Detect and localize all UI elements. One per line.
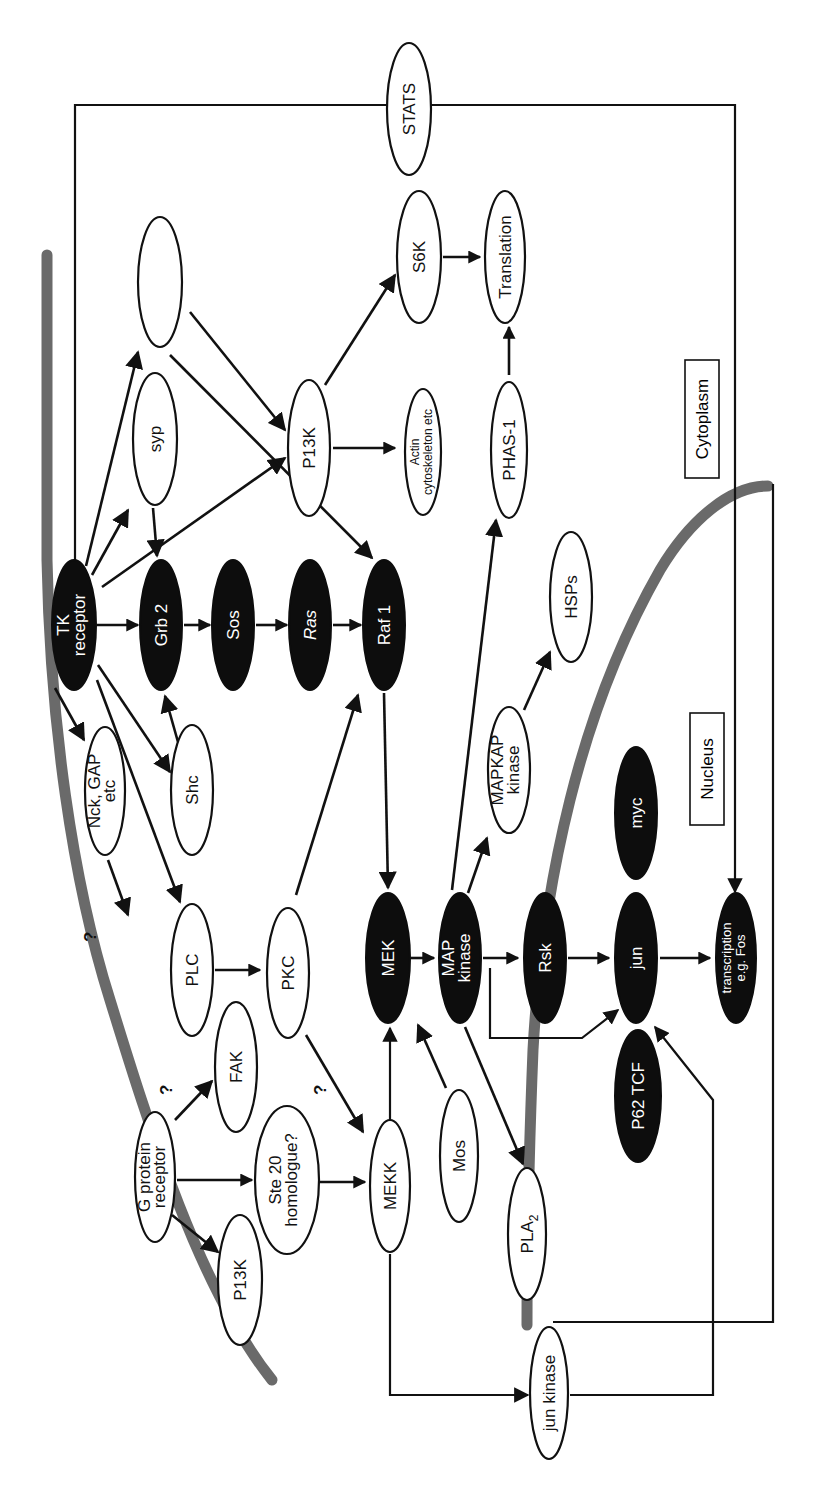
svg-text:Actin: Actin (408, 439, 422, 466)
node-mos: Mos (440, 1090, 478, 1222)
svg-text:jun: jun (627, 947, 646, 971)
node-fak: FAK (215, 1002, 257, 1132)
svg-text:MEKK: MEKK (381, 1161, 400, 1210)
node-hsps: HSPs (550, 532, 592, 662)
svg-text:receptor: receptor (150, 1145, 169, 1208)
node-tk-receptor: TK receptor (52, 560, 96, 690)
node-unlabeled-top (138, 217, 182, 347)
svg-text:kinase: kinase (455, 933, 474, 982)
node-stats: STATS (387, 43, 431, 175)
node-mapkap-kinase: MAPKAP kinase (488, 707, 530, 833)
svg-text:cytoskeleton etc: cytoskeleton etc (421, 409, 435, 495)
question-mark-g-protein-fak: ? (157, 1085, 176, 1095)
svg-text:FAK: FAK (227, 1050, 246, 1083)
nucleus-label: Nucleus (698, 738, 717, 799)
svg-text:receptor: receptor (70, 593, 89, 656)
node-shc: Shc (171, 725, 213, 855)
node-mek: MEK (366, 893, 410, 1023)
svg-text:etc: etc (100, 779, 119, 802)
svg-text:jun kinase: jun kinase (540, 1355, 559, 1433)
node-p13k-top: P13K (288, 380, 330, 516)
svg-text:PKC: PKC (279, 956, 298, 991)
question-mark-pkc-mekk: ? (311, 1085, 330, 1095)
svg-text:kinase: kinase (504, 745, 523, 794)
node-map-kinase: MAP kinase (439, 893, 481, 1023)
nucleus-label-box: Nucleus (690, 713, 724, 825)
node-p62-tcf: P62 TCF (615, 1030, 661, 1162)
cytoplasm-label: Cytoplasm (693, 379, 712, 459)
node-jun-kinase: jun kinase (530, 1327, 568, 1459)
svg-text:Translation: Translation (496, 215, 515, 298)
node-s6k: S6K (397, 191, 441, 323)
node-transcription: transcription e.g. Fos (716, 893, 756, 1023)
node-pla2: PLA2 (508, 1168, 546, 1300)
node-ste20-homologue: Ste 20 homologue? (255, 1106, 319, 1254)
node-translation: Translation (485, 191, 525, 323)
node-plc: PLC (171, 904, 213, 1036)
node-sos: Sos (212, 560, 254, 690)
node-rsk: Rsk (524, 893, 566, 1023)
node-raf1: Raf 1 (363, 560, 405, 690)
node-myc: myc (615, 747, 657, 879)
node-pkc: PKC (267, 908, 309, 1038)
node-phas1: PHAS-1 (491, 382, 527, 518)
svg-text:e.g. Fos: e.g. Fos (733, 934, 748, 981)
svg-text:PHAS-1: PHAS-1 (500, 419, 519, 480)
svg-text:transcription: transcription (719, 923, 734, 994)
svg-text:Ras: Ras (301, 609, 320, 640)
svg-text:homologue?: homologue? (282, 1133, 301, 1227)
svg-text:MEK: MEK (379, 939, 398, 977)
node-ras: Ras (289, 560, 331, 690)
svg-text:Grb 2: Grb 2 (152, 604, 171, 647)
svg-text:S6K: S6K (410, 240, 429, 273)
svg-text:Shc: Shc (183, 775, 202, 805)
node-syp: syp (133, 373, 177, 505)
svg-text:Rsk: Rsk (536, 943, 555, 973)
node-mekk: MEKK (370, 1120, 410, 1252)
svg-text:P13K: P13K (231, 1259, 250, 1301)
svg-text:HSPs: HSPs (562, 575, 581, 618)
node-jun: jun (615, 893, 657, 1023)
mekk-to-jun-kinase-line (390, 1254, 528, 1395)
svg-text:myc: myc (627, 797, 646, 829)
signal-transduction-diagram: ? ? ? Cytoplasm Nucleus STATS syp P13K S… (0, 0, 814, 1487)
node-g-protein-receptor: G protein receptor (135, 1112, 175, 1242)
svg-text:P13K: P13K (300, 427, 319, 469)
node-nck-gap: Nck, GAP etc (85, 727, 125, 855)
node-grb2: Grb 2 (140, 560, 182, 690)
svg-text:Mos: Mos (450, 1140, 469, 1172)
svg-text:syp: syp (146, 426, 165, 452)
node-actin-cytoskeleton: Actin cytoskeleton etc (405, 389, 441, 515)
svg-text:PLC: PLC (183, 953, 202, 986)
svg-text:Raf 1: Raf 1 (375, 605, 394, 646)
node-p13k-bottom: P13K (218, 1215, 262, 1345)
svg-text:Sos: Sos (224, 610, 243, 639)
svg-text:STATS: STATS (400, 83, 419, 135)
question-mark-nck: ? (81, 932, 100, 942)
cytoplasm-label-box: Cytoplasm (685, 360, 719, 478)
svg-text:P62 TCF: P62 TCF (629, 1062, 648, 1130)
